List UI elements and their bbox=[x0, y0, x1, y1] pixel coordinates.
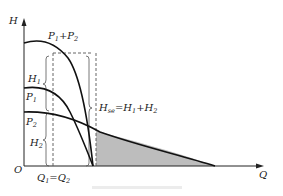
label-p2: P2 bbox=[25, 116, 37, 129]
label-q1-eq-q2: Q1=Q2 bbox=[37, 172, 70, 185]
label-p1: P1 bbox=[25, 91, 37, 104]
h2-brace bbox=[43, 113, 49, 166]
label-h2: H2 bbox=[29, 137, 43, 150]
x-axis-arrow-icon bbox=[256, 164, 264, 169]
y-axis-label: H bbox=[8, 15, 18, 26]
label-hse: Hse=H1+H2 bbox=[98, 102, 157, 115]
x-axis-label: Q bbox=[259, 169, 267, 180]
pump-series-diagram: H Q O P1+P2 H1 P1 P2 H2 Hse=H1+H2 Q1=Q2 bbox=[0, 0, 283, 196]
label-h1: H1 bbox=[27, 73, 41, 86]
y-axis-arrow-icon bbox=[22, 18, 27, 26]
origin-label: O bbox=[14, 164, 22, 175]
faint-caption bbox=[92, 186, 182, 189]
h1-brace bbox=[43, 56, 49, 111]
label-p1-plus-p2: P1+P2 bbox=[47, 30, 78, 43]
